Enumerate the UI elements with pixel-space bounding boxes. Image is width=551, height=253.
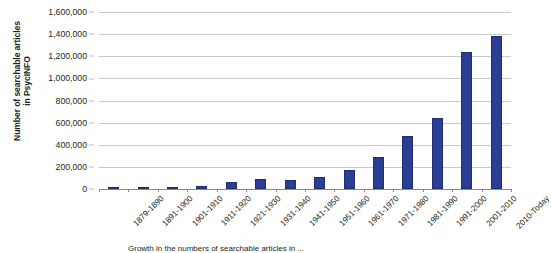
bar[interactable]: [432, 118, 443, 189]
y-axis-title-line1: Number of searchable articles: [12, 21, 22, 141]
x-axis-tick-mark: [305, 189, 306, 192]
y-axis-tick-mark: [89, 167, 94, 168]
x-axis-tick-label: 1981-1990: [425, 194, 459, 228]
x-axis-tick-mark: [158, 189, 159, 192]
chart-caption: Growth in the numbers of searchable arti…: [128, 244, 428, 253]
x-axis-tick-label: 1951-1960: [337, 194, 371, 228]
y-axis-tick-label: 200,000: [26, 162, 94, 171]
x-axis-tick-mark: [187, 189, 188, 192]
bar-slot: [393, 12, 422, 189]
bar[interactable]: [402, 136, 413, 189]
plot-area: [99, 12, 511, 189]
bar[interactable]: [255, 179, 266, 189]
x-axis-tick-mark: [364, 189, 365, 192]
bar[interactable]: [314, 177, 325, 189]
x-axis-tick-mark: [482, 189, 483, 192]
bar-slot: [187, 12, 216, 189]
bar-slot: [246, 12, 275, 189]
y-axis-tick-mark: [89, 144, 94, 145]
bar-slot: [364, 12, 393, 189]
bar[interactable]: [373, 157, 384, 189]
y-axis-tick-label: 400,000: [26, 140, 94, 149]
bar[interactable]: [226, 182, 237, 189]
x-axis-tick-mark: [128, 189, 129, 192]
y-axis-tick-mark: [89, 56, 94, 57]
bar-slot: [217, 12, 246, 189]
y-axis-tick-mark: [89, 12, 94, 13]
x-axis-tick-mark: [511, 189, 512, 192]
y-axis-tick-mark: [89, 34, 94, 35]
y-axis-tick-mark: [89, 122, 94, 123]
y-axis-tick-value: 200,000: [56, 161, 87, 171]
x-axis-tick-mark: [334, 189, 335, 192]
y-axis-tick-value: 1,400,000: [48, 29, 87, 39]
x-axis-tick-label: 1961-1970: [367, 194, 401, 228]
bar[interactable]: [491, 36, 502, 189]
y-axis-tick-labels: 0200,000400,000600,000800,0001,000,0001,…: [26, 0, 94, 200]
y-axis-tick-label: 1,400,000: [26, 30, 94, 39]
y-axis-tick-label: 1,200,000: [26, 52, 94, 61]
y-axis-tick-label: 600,000: [26, 118, 94, 127]
y-axis-tick-mark: [89, 78, 94, 79]
x-axis-tick-label: 1891-1900: [161, 194, 195, 228]
y-axis-tick-value: 600,000: [56, 117, 87, 127]
y-axis-tick-value: 1,600,000: [48, 7, 87, 17]
x-axis-tick-mark: [99, 189, 100, 192]
bar-slot: [276, 12, 305, 189]
y-axis-tick-mark: [89, 189, 94, 190]
bar-slot: [99, 12, 128, 189]
x-axis-tick-label: 1941-1950: [308, 194, 342, 228]
y-axis-tick-mark: [89, 100, 94, 101]
bar[interactable]: [344, 170, 355, 189]
y-axis-tick-value: 0: [82, 184, 87, 194]
y-axis-tick-value: 1,200,000: [48, 51, 87, 61]
y-axis-tick-label: 800,000: [26, 96, 94, 105]
bar-slot: [305, 12, 334, 189]
x-axis-tick-label: 1901-1910: [190, 194, 224, 228]
y-axis-tick-value: 800,000: [56, 95, 87, 105]
x-axis-tick-mark: [452, 189, 453, 192]
y-axis-tick-value: 1,000,000: [48, 73, 87, 83]
x-axis-tick-mark: [276, 189, 277, 192]
x-axis-tick-label: 1971-1980: [396, 194, 430, 228]
x-axis-tick-label: 1991-2000: [455, 194, 489, 228]
x-axis-tick-mark: [393, 189, 394, 192]
bar[interactable]: [461, 52, 472, 189]
x-axis-tick-mark: [217, 189, 218, 192]
bar-slot: [158, 12, 187, 189]
x-axis-tick-label: 1931-1940: [278, 194, 312, 228]
bars-layer: [99, 12, 511, 189]
y-axis-tick-label: 0: [26, 185, 94, 194]
x-axis-tick-label: 1911-1920: [219, 194, 253, 228]
bar-slot: [423, 12, 452, 189]
x-axis-tick-label: 2001-2010: [484, 194, 518, 228]
bar-slot: [334, 12, 363, 189]
bar-slot: [128, 12, 157, 189]
x-axis-tick-label: 1921-1930: [249, 194, 283, 228]
y-axis-tick-label: 1,600,000: [26, 8, 94, 17]
y-axis-tick-label: 1,000,000: [26, 74, 94, 83]
bar-slot: [452, 12, 481, 189]
y-axis-tick-value: 400,000: [56, 139, 87, 149]
x-axis-tick-label: 2010-Today: [515, 194, 551, 231]
x-axis-tick-mark: [246, 189, 247, 192]
x-axis-tick-mark: [423, 189, 424, 192]
x-axis-tick-label: 1879-1890: [131, 194, 165, 228]
bar-slot: [482, 12, 511, 189]
bar[interactable]: [285, 180, 296, 189]
